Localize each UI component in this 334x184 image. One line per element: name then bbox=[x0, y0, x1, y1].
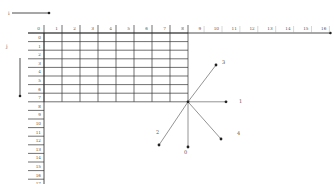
column-label: 12 bbox=[249, 26, 255, 31]
vector-label: 1 bbox=[239, 98, 242, 104]
column-label: 0 bbox=[37, 26, 40, 31]
row-label: 2 bbox=[38, 52, 41, 57]
vector-label: 0 bbox=[184, 149, 187, 155]
vector-label: 2 bbox=[156, 129, 159, 135]
row-label: 12 bbox=[36, 138, 42, 143]
column-label: 1 bbox=[55, 26, 58, 31]
vector-label: 4 bbox=[237, 130, 240, 136]
vector-endpoint bbox=[220, 138, 223, 141]
row-label: 0 bbox=[38, 35, 41, 40]
column-label: 10 bbox=[214, 26, 220, 31]
row-label: 8 bbox=[38, 104, 41, 109]
row-label: 9 bbox=[38, 112, 41, 117]
vector-line bbox=[188, 102, 221, 139]
grid bbox=[28, 25, 188, 184]
axis-x-label: i bbox=[8, 10, 10, 16]
x-direction-arrowhead bbox=[48, 12, 51, 15]
row-label: 16 bbox=[36, 173, 42, 178]
y-direction-arrowhead bbox=[19, 95, 22, 98]
column-label: 6 bbox=[145, 26, 148, 31]
row-label: 15 bbox=[36, 164, 42, 169]
row-label: 5 bbox=[38, 78, 41, 83]
column-label: 14 bbox=[285, 26, 291, 31]
vector-line bbox=[159, 102, 188, 145]
column-label: 3 bbox=[91, 26, 94, 31]
vector-endpoint bbox=[215, 64, 218, 67]
row-label: 7 bbox=[38, 95, 41, 100]
row-label: 13 bbox=[36, 147, 42, 152]
direction-vectors: 31402 bbox=[156, 59, 242, 155]
row-label: 6 bbox=[38, 87, 41, 92]
column-label: 2 bbox=[73, 26, 76, 31]
axes bbox=[12, 12, 332, 184]
column-label: 11 bbox=[232, 26, 238, 31]
row-label: 14 bbox=[36, 155, 42, 160]
axis-y-label: j bbox=[5, 43, 8, 50]
vector-endpoint bbox=[187, 146, 190, 149]
row-label: 11 bbox=[36, 130, 42, 135]
vector-line bbox=[188, 65, 216, 102]
vector-label: 3 bbox=[222, 59, 225, 65]
row-label: 4 bbox=[38, 69, 41, 74]
row-label: 1 bbox=[38, 44, 41, 49]
column-label: 4 bbox=[109, 26, 112, 31]
row-label: 10 bbox=[36, 121, 42, 126]
vector-origin bbox=[187, 100, 190, 103]
column-label: 13 bbox=[267, 26, 273, 31]
column-label: 15 bbox=[303, 26, 309, 31]
column-label: 7 bbox=[163, 26, 166, 31]
row-label: 3 bbox=[38, 61, 41, 66]
vector-endpoint bbox=[225, 100, 228, 103]
vector-endpoint bbox=[158, 144, 161, 147]
column-label: 8 bbox=[181, 26, 184, 31]
grid-diagram: 0123456789101112131415160123456789101112… bbox=[0, 0, 334, 184]
column-label: 16 bbox=[321, 26, 327, 31]
column-label: 5 bbox=[127, 26, 130, 31]
row-label: 17 bbox=[36, 181, 42, 184]
column-label: 9 bbox=[198, 26, 201, 31]
